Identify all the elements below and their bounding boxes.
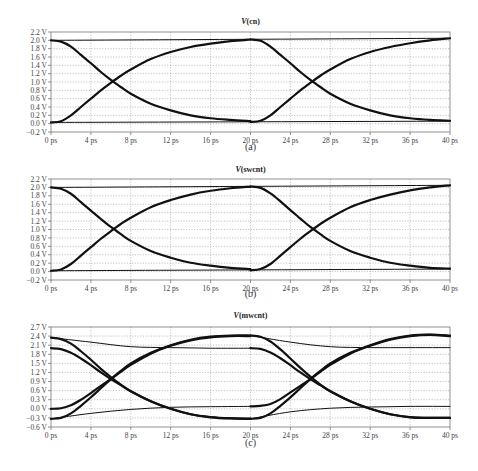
waveform-line — [51, 338, 251, 349]
waveform-line — [251, 335, 451, 347]
x-tick-label: 24 ps — [282, 431, 298, 440]
y-tick-label: 0.6 V — [30, 386, 47, 395]
x-tick-label: 12 ps — [163, 284, 179, 293]
panel-title: V(mwcnt) — [234, 311, 268, 320]
x-tick-label: 36 ps — [402, 284, 418, 293]
x-tick-label: 40 ps — [442, 136, 458, 145]
x-tick-label: 28 ps — [322, 136, 338, 145]
figure-canvas: 2.2 V2.0 V1.8 V1.6 V1.4 V1.2 V1.0 V0.8 V… — [0, 0, 478, 471]
waveform-line — [51, 40, 251, 123]
x-tick-label: 16 ps — [203, 431, 219, 440]
waveform-line — [251, 38, 451, 122]
x-tick-label: 28 ps — [322, 284, 338, 293]
waveform-line — [251, 335, 451, 407]
waveform-line — [251, 40, 451, 121]
x-tick-label: 0 ps — [45, 284, 57, 293]
y-tick-label: 0.9 V — [30, 377, 47, 386]
x-tick-label: 32 ps — [362, 136, 378, 145]
x-tick-label: 16 ps — [203, 136, 219, 145]
y-tick-label: 0.0 V — [30, 404, 47, 413]
x-tick-label: 24 ps — [282, 136, 298, 145]
panel-caption: (b) — [245, 288, 257, 300]
x-tick-label: 32 ps — [362, 284, 378, 293]
x-tick-label: 40 ps — [442, 284, 458, 293]
panel-caption: (a) — [245, 141, 256, 153]
waveform-line — [251, 185, 451, 270]
x-tick-label: 4 ps — [85, 431, 97, 440]
waveform-line — [51, 40, 251, 121]
x-tick-label: 8 ps — [125, 136, 137, 145]
x-tick-label: 12 ps — [163, 136, 179, 145]
panel-caption: (c) — [245, 437, 256, 449]
x-tick-label: 12 ps — [163, 431, 179, 440]
panel-a: 2.2 V2.0 V1.8 V1.6 V1.4 V1.2 V1.0 V0.8 V… — [26, 17, 458, 153]
panel-c: 2.7 V2.4 V2.1 V1.8 V1.5 V1.2 V0.9 V0.6 V… — [26, 311, 458, 449]
y-tick-label: 2.1 V — [30, 341, 47, 350]
y-tick-label: 2.7 V — [30, 323, 47, 332]
panel-title: V(swcnt) — [235, 165, 266, 174]
x-tick-label: 16 ps — [203, 284, 219, 293]
x-tick-label: 36 ps — [402, 431, 418, 440]
y-tick-label: 2.4 V — [30, 332, 47, 341]
y-tick-label: 1.2 V — [30, 368, 47, 377]
x-tick-label: 40 ps — [442, 431, 458, 440]
x-tick-label: 36 ps — [402, 136, 418, 145]
x-tick-label: 0 ps — [45, 431, 57, 440]
y-tick-label: 0.3 V — [30, 395, 47, 404]
x-tick-label: 4 ps — [85, 136, 97, 145]
x-tick-label: 32 ps — [362, 431, 378, 440]
x-tick-label: 0 ps — [45, 136, 57, 145]
y-tick-label: 1.5 V — [30, 359, 47, 368]
panel-b: 2.2 V2.0 V1.8 V1.6 V1.4 V1.2 V1.0 V0.8 V… — [26, 165, 458, 300]
waveform-line — [51, 187, 251, 271]
x-tick-label: 24 ps — [282, 284, 298, 293]
waveform-line — [51, 121, 450, 122]
x-tick-label: 4 ps — [85, 284, 97, 293]
y-tick-label: −0.3 V — [26, 414, 47, 423]
y-tick-label: 1.8 V — [30, 350, 47, 359]
x-tick-label: 8 ps — [125, 431, 137, 440]
x-tick-label: 8 ps — [125, 284, 137, 293]
x-tick-label: 28 ps — [322, 431, 338, 440]
panel-title: V(cn) — [241, 17, 260, 26]
